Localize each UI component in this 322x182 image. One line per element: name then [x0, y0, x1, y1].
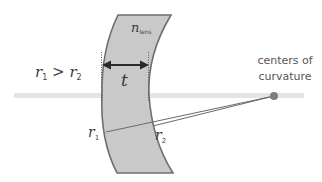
center-of-curvature-dot [270, 92, 278, 100]
radius1-label: r1 [88, 124, 99, 142]
optical-axis [14, 93, 304, 98]
radius2-label: r2 [155, 127, 166, 145]
lens-diagram: r1 > r2 t nlens r1 r2 centers of curvatu… [0, 0, 322, 182]
thickness-label: t [121, 70, 128, 90]
radius2-ray [153, 96, 274, 126]
centers-of-curvature-label-line1: centers of [257, 54, 313, 67]
centers-of-curvature-label-line2: curvature [258, 70, 311, 83]
radius-condition-label: r1 > r2 [35, 63, 82, 82]
